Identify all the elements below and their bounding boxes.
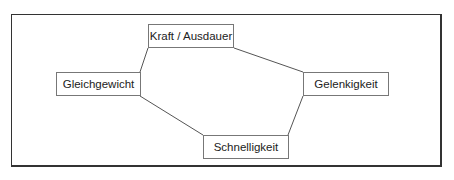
node-label: Gelenkigkeit	[314, 78, 377, 90]
edge-kraft-gelenkigkeit	[234, 48, 303, 72]
node-kraft-ausdauer: Kraft / Ausdauer	[148, 24, 234, 48]
edge-schnelligkeit-gelenkigkeit	[288, 96, 303, 135]
edge-kraft-gleichgewicht	[140, 48, 148, 72]
node-label: Schnelligkeit	[214, 141, 279, 153]
node-label: Gleichgewicht	[63, 78, 135, 90]
node-schnelligkeit: Schnelligkeit	[203, 135, 289, 159]
node-gelenkigkeit: Gelenkigkeit	[303, 72, 389, 96]
node-gleichgewicht: Gleichgewicht	[56, 72, 141, 96]
node-label: Kraft / Ausdauer	[150, 30, 232, 42]
edge-gleichgewicht-schnelligkeit	[140, 96, 203, 135]
